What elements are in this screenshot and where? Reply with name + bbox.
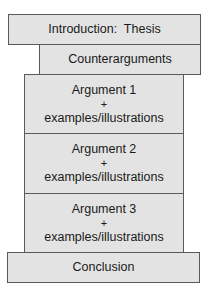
- block-detail: examples/illustrations: [44, 230, 164, 245]
- conclusion-block: Conclusion: [7, 252, 200, 283]
- block-label: Argument 1: [72, 83, 137, 98]
- argument-3-block: Argument 3 + examples/illustrations: [24, 193, 184, 253]
- counterarguments-block: Counterarguments: [39, 44, 201, 75]
- block-detail: examples/illustrations: [44, 111, 164, 126]
- introduction-thesis-block: Introduction: Thesis: [8, 14, 201, 45]
- block-label: Argument 2: [72, 142, 137, 157]
- block-label: Conclusion: [73, 260, 135, 275]
- plus-sign: +: [101, 217, 107, 230]
- block-label: Argument 3: [72, 202, 137, 217]
- argument-1-block: Argument 1 + examples/illustrations: [24, 74, 184, 134]
- block-label: Counterarguments: [68, 52, 172, 67]
- plus-sign: +: [101, 98, 107, 111]
- block-label: Introduction: Thesis: [48, 22, 160, 37]
- block-detail: examples/illustrations: [44, 170, 164, 185]
- argument-2-block: Argument 2 + examples/illustrations: [24, 133, 184, 194]
- plus-sign: +: [101, 157, 107, 170]
